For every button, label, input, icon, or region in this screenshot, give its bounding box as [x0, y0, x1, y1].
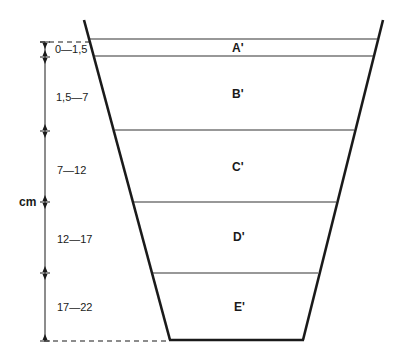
left-wall	[84, 20, 170, 340]
depth-label-c: 7—12	[57, 164, 86, 176]
layer-label-b: B'	[232, 87, 244, 101]
layer-label-d: D'	[233, 230, 245, 244]
layer-label-c: C'	[232, 160, 244, 174]
layer-label-a: A'	[232, 41, 244, 55]
unit-label: cm	[19, 195, 36, 209]
depth-label-d: 12—17	[57, 233, 92, 245]
depth-label-b: 1,5—7	[56, 91, 88, 103]
depth-label-a: 0—1,5	[55, 43, 87, 55]
right-wall	[303, 20, 383, 340]
depth-label-e: 17—22	[57, 301, 92, 313]
layer-label-e: E'	[234, 300, 245, 314]
soil-profile-diagram: 0—1,5 1,5—7 7—12 12—17 17—22 cm A' B' C'…	[0, 0, 398, 359]
